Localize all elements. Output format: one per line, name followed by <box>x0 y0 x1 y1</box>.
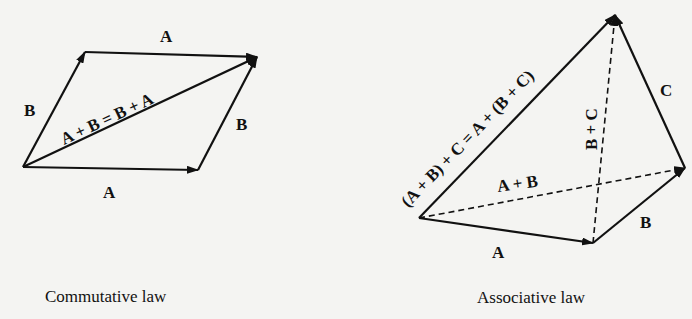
label-b-plus-c: B + C <box>582 108 601 150</box>
label-b: B <box>640 213 651 232</box>
label-diagonal: A + B = B + A <box>58 89 157 149</box>
vector-b <box>593 168 685 243</box>
vector-a-top <box>85 52 257 57</box>
associative-figure: A B C A + B B + C (A + B) + C = A + (B +… <box>397 15 685 307</box>
caption-commutative: Commutative law <box>45 287 167 306</box>
label-b-right: B <box>236 115 247 134</box>
commutative-figure: A A B B A + B = B + A Commutative law <box>23 27 257 306</box>
label-a-bottom: A <box>103 183 116 202</box>
vector-a-bottom <box>23 167 198 170</box>
label-a: A <box>492 243 505 262</box>
label-a-top: A <box>160 27 173 46</box>
label-a-plus-b: A + B <box>496 171 539 196</box>
caption-associative: Associative law <box>477 288 586 307</box>
vector-b-right <box>198 57 257 170</box>
vector-c <box>615 15 685 168</box>
label-b-left: B <box>24 101 35 120</box>
label-c: C <box>660 81 672 100</box>
vector-a <box>419 218 593 243</box>
vector-addition-diagram: A A B B A + B = B + A Commutative law A … <box>0 0 692 319</box>
